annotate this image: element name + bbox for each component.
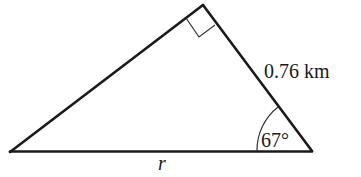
angle-label: 67° <box>261 129 289 151</box>
side-length-label: 0.76 km <box>264 60 330 82</box>
base-label: r <box>158 152 166 174</box>
triangle-diagram: 0.76 km r 67° <box>0 0 361 177</box>
right-angle-marker <box>186 18 215 37</box>
side-left-apex <box>10 5 203 152</box>
